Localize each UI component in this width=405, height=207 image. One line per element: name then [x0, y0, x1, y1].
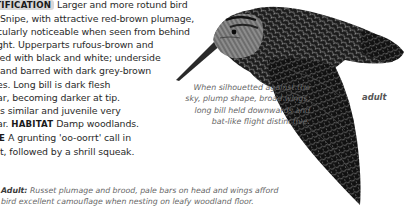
description-line-12: t, followed by a shrill squeak.	[0, 145, 198, 158]
adult-caption: Adult: Russet plumage and brood, pale ba…	[1, 185, 278, 207]
description-line-11: E A grunting 'oo-oorrt' call in	[0, 131, 198, 145]
description-line-7: es. Long bill is dark flesh	[0, 78, 198, 91]
description-line-5: led with black and white; underside	[0, 51, 198, 64]
flight-caption: When silhouetted against the sky, plump …	[182, 82, 310, 128]
adult-label: adult	[362, 92, 386, 102]
identification-label: IDENTIFICATION	[0, 0, 54, 10]
species-description: IDENTIFICATION Larger and more rotund bi…	[0, 0, 198, 158]
eye	[232, 30, 237, 35]
description-line-6: and barred with dark grey-brown	[0, 64, 198, 77]
description-line-1: IDENTIFICATION Larger and more rotund bi…	[0, 0, 198, 12]
voice-label-fragment: E	[0, 133, 5, 143]
description-line-3: cularly noticeable when seen from behind	[0, 25, 198, 38]
habitat-label: HABITAT	[11, 119, 53, 129]
description-line-10: ar. HABITAT Damp woodlands.	[0, 117, 198, 131]
description-line-8: ar, becoming darker at tip.	[0, 91, 198, 104]
description-line-4: ght. Upperparts rufous-brown and	[0, 38, 198, 51]
description-line-9: s similar and juvenile very	[0, 104, 198, 117]
adult-caption-lead: Adult:	[1, 186, 27, 195]
description-line-2: Snipe, with attractive red-brown plumage…	[0, 12, 198, 25]
